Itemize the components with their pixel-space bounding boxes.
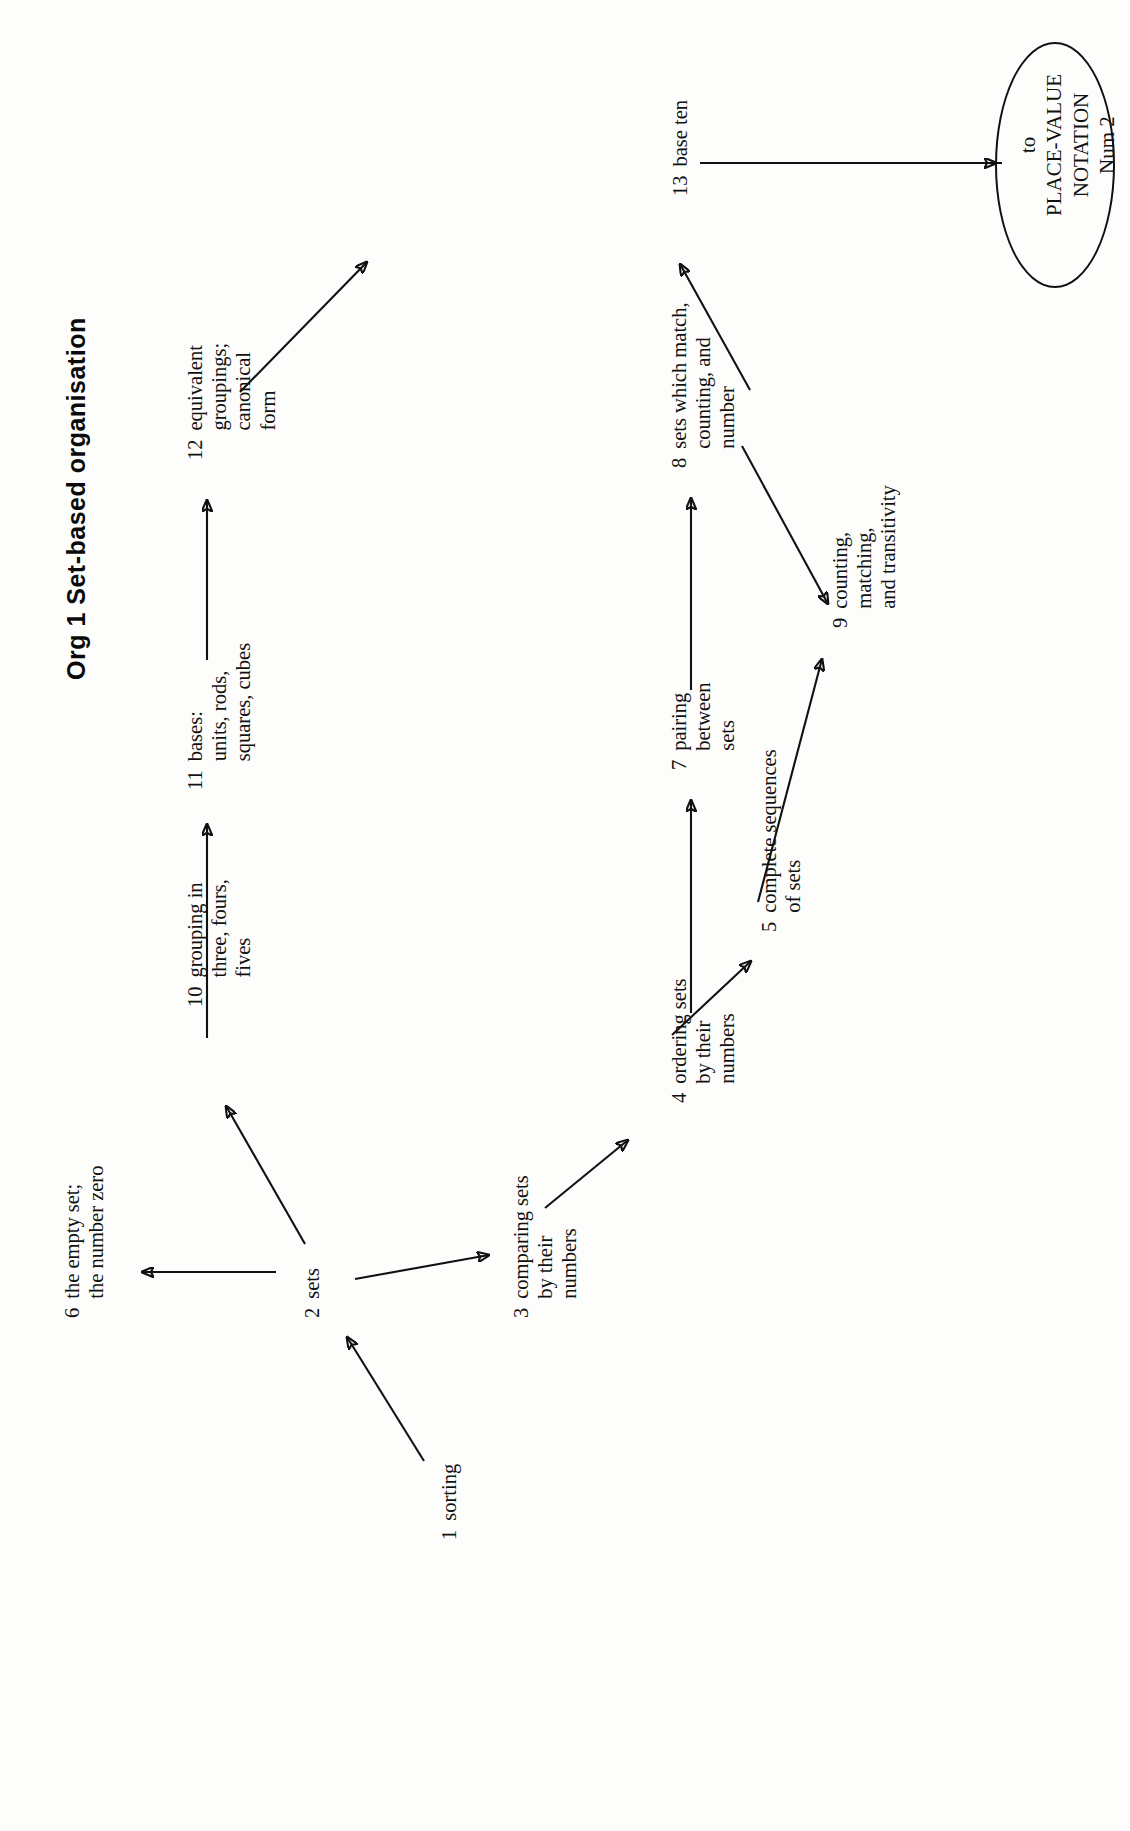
node-9-number: 9 (828, 618, 852, 628)
node-13[interactable]: 13 base ten (668, 100, 692, 196)
node-1-number: 1 (437, 1530, 461, 1540)
node-7-label: pairingbetweensets (667, 682, 740, 750)
node-2-label: sets (300, 1268, 324, 1299)
node-8-number: 8 (667, 458, 691, 468)
node-9-label: counting,matching,and transitivity (828, 485, 901, 609)
node-5[interactable]: 5 complete sequencesof sets (757, 749, 805, 932)
node-3-number: 3 (509, 1308, 533, 1318)
node-1-label: sorting (437, 1464, 461, 1521)
node-10-label: grouping inthree, fours,fives (183, 879, 256, 977)
edge-1-to-2 (347, 1337, 424, 1461)
node-10[interactable]: 10 grouping inthree, fours,fives (183, 879, 256, 1007)
edge-8-to-9 (742, 446, 828, 604)
node-11-label: bases:units, rods,squares, cubes (183, 643, 256, 761)
terminal-line-1: to (1015, 45, 1041, 245)
node-8-label: sets which match,counting, andnumber (667, 302, 740, 448)
node-12-number: 12 (183, 440, 207, 461)
node-3[interactable]: 3 comparing setsby theirnumbers (509, 1175, 582, 1318)
terminal-line-2: PLACE-VALUE (1041, 45, 1067, 245)
node-4[interactable]: 4 ordering setsby theirnumbers (667, 978, 740, 1103)
node-13-label: base ten (668, 100, 692, 167)
node-6-label: the empty set;the number zero (60, 1166, 108, 1299)
node-3-label: comparing setsby theirnumbers (509, 1175, 582, 1299)
node-8[interactable]: 8 sets which match,counting, andnumber (667, 302, 740, 468)
page-title: Org 1 Set-based organisation (62, 317, 91, 680)
edge-layer (0, 0, 1130, 1831)
node-9[interactable]: 9 counting,matching,and transitivity (828, 485, 901, 628)
node-6-number: 6 (60, 1308, 84, 1318)
node-4-label: ordering setsby theirnumbers (667, 978, 740, 1083)
terminal-label: to PLACE-VALUE NOTATION Num 2 (1015, 45, 1120, 245)
node-5-number: 5 (757, 922, 781, 932)
node-11-number: 11 (183, 770, 207, 790)
node-5-label: complete sequencesof sets (757, 749, 805, 912)
node-12-label: equivalentgroupings;canonicalform (183, 343, 280, 431)
node-12[interactable]: 12 equivalentgroupings;canonicalform (183, 343, 280, 460)
node-7-number: 7 (667, 760, 691, 770)
terminal-line-3: NOTATION (1068, 45, 1094, 245)
node-7[interactable]: 7 pairingbetweensets (667, 682, 740, 770)
edge-2-to-3 (355, 1255, 489, 1279)
node-4-number: 4 (667, 1093, 691, 1103)
node-1[interactable]: 1 sorting (437, 1464, 461, 1540)
node-6[interactable]: 6 the empty set;the number zero (60, 1166, 108, 1318)
edge-2-to-10 (226, 1106, 305, 1244)
node-11[interactable]: 11 bases:units, rods,squares, cubes (183, 643, 256, 790)
node-13-number: 13 (668, 176, 692, 197)
node-2-number: 2 (300, 1308, 324, 1318)
terminal-line-4: Num 2 (1094, 45, 1120, 245)
diagram-canvas: Org 1 Set-based organisation (0, 0, 1130, 1831)
node-10-number: 10 (183, 987, 207, 1008)
node-2[interactable]: 2 sets (300, 1268, 324, 1318)
